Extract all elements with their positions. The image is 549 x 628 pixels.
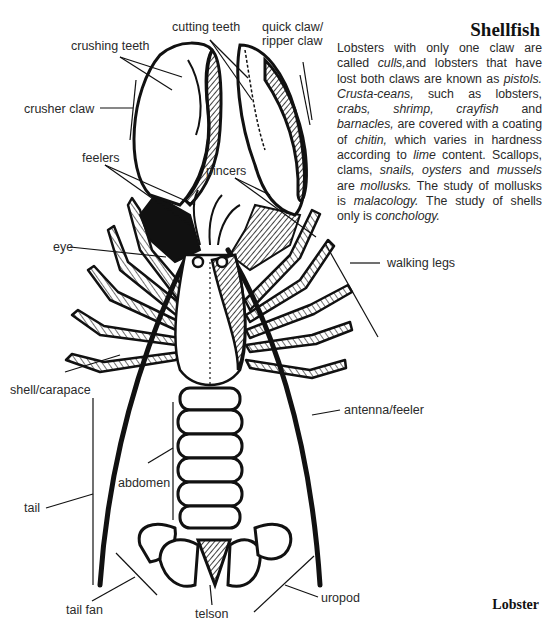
label-shell-carapace: shell/carapace <box>10 384 91 397</box>
label-cutting-teeth: cutting teeth <box>172 21 240 34</box>
text-run: and <box>462 163 497 177</box>
italic-term: mussels <box>497 163 542 177</box>
tail-fan <box>139 524 291 586</box>
italic-term: culls, <box>378 56 406 70</box>
label-eye: eye <box>53 241 73 254</box>
italic-term: lime <box>413 148 436 162</box>
italic-term: chitin, <box>355 133 387 147</box>
figure-caption: Lobster <box>492 597 539 613</box>
label-uropod: uropod <box>321 592 360 605</box>
text-run: are <box>337 179 360 193</box>
head-feelers <box>194 190 240 245</box>
label-antenna-feeler: antenna/feeler <box>344 404 424 417</box>
label-walking-legs: walking legs <box>387 257 455 270</box>
label-telson: telson <box>195 608 228 621</box>
crusher-claw <box>134 43 221 205</box>
italic-term: crabs, shrimp, crayfish <box>337 102 499 116</box>
page-title: Shellfish <box>470 19 540 41</box>
text-run: and <box>499 102 542 116</box>
label-quick-claw-1: quick claw/ <box>262 21 323 34</box>
label-crusher-claw: crusher claw <box>24 103 94 116</box>
italic-term: malacology. <box>354 194 419 208</box>
quick-claw <box>238 45 307 215</box>
italic-term: pistols. <box>504 72 542 86</box>
italic-term: barnacles, <box>337 117 394 131</box>
label-pincers: pincers <box>206 165 246 178</box>
label-quick-claw-2: ripper claw <box>262 35 322 48</box>
carapace <box>175 255 245 385</box>
abdomen-segments <box>178 388 242 528</box>
label-tail: tail <box>24 502 40 515</box>
italic-term: mollusks. <box>360 179 411 193</box>
description-paragraph: Lobsters with only one claw are called c… <box>337 41 542 225</box>
label-crushing-teeth: crushing teeth <box>71 40 150 53</box>
text-run: such as lobsters, <box>414 87 542 101</box>
italic-term: snails, oysters <box>380 163 462 177</box>
italic-term: Crusta-ceans, <box>337 87 414 101</box>
label-tail-fan: tail fan <box>66 604 103 617</box>
italic-term: conchology. <box>375 209 440 223</box>
label-abdomen: abdomen <box>118 477 170 490</box>
label-feelers: feelers <box>82 152 120 165</box>
